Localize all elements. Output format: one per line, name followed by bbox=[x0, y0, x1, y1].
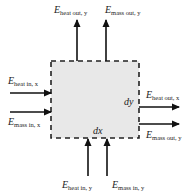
label-subscript: mass out, y bbox=[111, 9, 140, 16]
label-subscript: heat out, x bbox=[152, 94, 179, 101]
label-heat-out-y: Eheat out, y bbox=[54, 5, 87, 17]
label-heat-in-y: Eheat in, y bbox=[62, 180, 92, 192]
label-heat-out-x: Eheat out, x bbox=[146, 90, 179, 102]
label-mass-in-y: Emass in, y bbox=[112, 180, 144, 192]
label-subscript: mass out, y bbox=[152, 134, 181, 141]
dimension-dy: dy bbox=[124, 97, 133, 107]
label-heat-in-x: Eheat in, x bbox=[8, 76, 38, 88]
dimension-dx: dx bbox=[93, 126, 102, 136]
label-subscript: mass in, x bbox=[14, 121, 40, 128]
label-mass-in-x: Emass in, x bbox=[8, 117, 40, 129]
label-subscript: heat in, x bbox=[14, 80, 38, 87]
control-volume-diagram: Eheat out, y Emass out, y Eheat in, x Em… bbox=[0, 0, 193, 193]
label-subscript: heat out, y bbox=[60, 9, 87, 16]
label-mass-out-y: Emass out, y bbox=[105, 5, 141, 17]
label-mass-out-x: Emass out, y bbox=[146, 130, 182, 142]
label-subscript: heat in, y bbox=[68, 184, 92, 191]
label-subscript: mass in, y bbox=[118, 184, 144, 191]
